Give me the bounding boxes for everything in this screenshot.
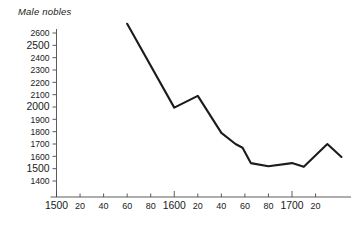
y-axis-tick-label: 2600 bbox=[30, 28, 49, 38]
x-axis-tick-label: 20 bbox=[311, 201, 321, 211]
y-axis-tick-label: 1900 bbox=[30, 115, 49, 125]
y-axis-tick-label: 2100 bbox=[30, 90, 49, 100]
x-axis-tick-group: 150020406080160020406080170020 bbox=[45, 191, 321, 211]
chart-plot-area: 2600250024002300220021002000190018001700… bbox=[0, 0, 357, 227]
y-axis-tick-label: 2400 bbox=[30, 53, 49, 63]
y-axis-tick-label: 2000 bbox=[26, 101, 49, 112]
y-axis-tick-label: 2500 bbox=[26, 40, 49, 51]
y-axis-tick-label: 1700 bbox=[30, 139, 49, 149]
x-axis-tick-label: 80 bbox=[146, 201, 156, 211]
x-axis-tick-label: 1700 bbox=[280, 200, 303, 211]
x-axis-tick-label: 1600 bbox=[163, 200, 186, 211]
x-axis-tick-label: 20 bbox=[193, 201, 203, 211]
x-axis-tick-label: 40 bbox=[99, 201, 109, 211]
y-axis-tick-label: 1500 bbox=[26, 163, 49, 174]
y-axis-tick-label: 1400 bbox=[30, 176, 49, 186]
y-axis-tick-label: 2300 bbox=[30, 65, 49, 75]
y-axis-tick-group: 2600250024002300220021002000190018001700… bbox=[26, 28, 56, 186]
y-axis-tick-label: 2200 bbox=[30, 78, 49, 88]
data-line-male-nobles bbox=[127, 24, 341, 167]
x-axis-tick-label: 60 bbox=[122, 201, 132, 211]
x-axis-tick-label: 1500 bbox=[45, 200, 68, 211]
x-axis-tick-label: 80 bbox=[263, 201, 273, 211]
chart-container: Male nobles 2600250024002300220021002000… bbox=[0, 0, 357, 227]
x-axis-tick-label: 40 bbox=[216, 201, 226, 211]
x-axis-tick-label: 60 bbox=[240, 201, 250, 211]
x-axis-tick-label: 20 bbox=[75, 201, 85, 211]
y-axis-tick-label: 1600 bbox=[30, 152, 49, 162]
y-axis-tick-label: 1800 bbox=[30, 127, 49, 137]
